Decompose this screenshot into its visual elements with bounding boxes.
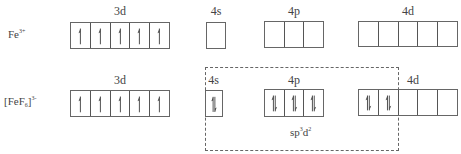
up-arrow-icon (150, 91, 169, 116)
paired-arrows-icon (285, 90, 304, 116)
orbital-cell (285, 22, 305, 47)
label-4p-row1: 4p (264, 4, 324, 19)
hybrid-sup2: 2 (308, 126, 311, 132)
orbital-4p-row1 (264, 21, 324, 48)
paired-arrows-icon (265, 90, 284, 116)
hybridization-label: sp3d2 (290, 126, 311, 138)
orbital-4d-row1 (358, 21, 458, 47)
orbital-cell (379, 90, 399, 115)
hybrid-base: sp (290, 126, 300, 138)
orbital-cell (71, 91, 91, 116)
orbital-4s-row1 (206, 22, 226, 49)
label-4d-row2: 4d (398, 73, 428, 88)
orbital-4p-row2 (264, 89, 324, 117)
up-arrow-icon (111, 91, 130, 116)
paired-arrows-icon (206, 91, 222, 116)
up-arrow-icon (91, 23, 110, 48)
orbital-cell (150, 91, 169, 116)
orbital-cell (379, 22, 399, 46)
paired-arrows-icon (379, 90, 398, 115)
orbital-cell (130, 23, 150, 48)
label-4s-row2: 4s (205, 73, 222, 88)
up-arrow-icon (130, 23, 149, 48)
orbital-cell (91, 91, 111, 116)
orbital-cell (399, 22, 419, 46)
up-arrow-icon (91, 91, 110, 116)
up-arrow-icon (111, 23, 130, 48)
orbital-cell (91, 23, 111, 48)
up-arrow-icon (71, 91, 90, 116)
species-base: Fe (8, 28, 19, 40)
label-4s-row1: 4s (206, 4, 226, 19)
orbital-cell (150, 23, 169, 48)
orbital-3d-row2 (70, 90, 170, 117)
paired-arrows-icon (359, 90, 378, 115)
orbital-cell (418, 22, 438, 46)
orbital-cell (130, 91, 150, 116)
orbital-cell (111, 91, 131, 116)
label-4p-row2: 4p (264, 73, 324, 88)
orbital-cell (438, 90, 457, 115)
species-charge: 3+ (19, 28, 25, 34)
orbital-4d-row2 (358, 89, 458, 116)
label-3d-row2: 3d (70, 73, 170, 88)
orbital-cell (265, 90, 285, 116)
orbital-cell (285, 90, 305, 116)
species-label-fef6: [FeF6]3- (4, 95, 36, 108)
species-label-fe3plus: Fe3+ (8, 28, 25, 40)
species-charge: 3- (31, 95, 36, 101)
up-arrow-icon (71, 23, 90, 48)
up-arrow-icon (130, 91, 149, 116)
orbital-cell (359, 90, 379, 115)
orbital-cell (399, 90, 419, 115)
label-3d-row1: 3d (70, 4, 170, 19)
orbital-cell (304, 90, 323, 116)
orbital-cell (265, 22, 285, 47)
orbital-3d-row1 (70, 22, 170, 49)
orbital-cell (304, 22, 323, 47)
orbital-cell (207, 23, 225, 48)
species-base: FeF (8, 95, 25, 107)
paired-arrows-icon (304, 90, 323, 116)
orbital-cell (359, 22, 379, 46)
orbital-4s-row2 (205, 90, 223, 117)
orbital-cell (206, 91, 222, 116)
up-arrow-icon (150, 23, 169, 48)
label-4d-row1: 4d (358, 4, 458, 19)
orbital-cell (438, 22, 457, 46)
orbital-cell (418, 90, 438, 115)
orbital-cell (71, 23, 91, 48)
orbital-cell (111, 23, 131, 48)
